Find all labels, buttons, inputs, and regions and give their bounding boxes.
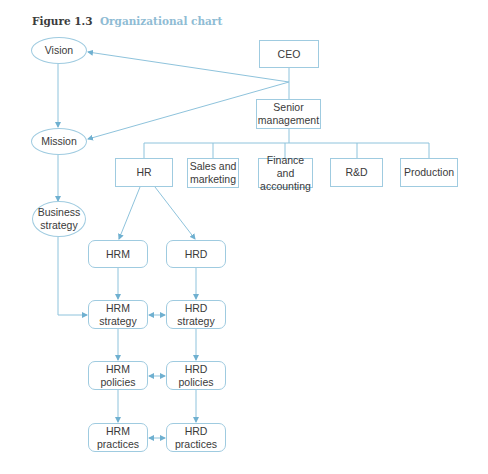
node-business-strategy: Business strategy xyxy=(32,201,86,237)
node-mission: Mission xyxy=(31,128,87,155)
node-hrm-strategy: HRM strategy xyxy=(88,300,148,329)
node-senior-management: Senior management xyxy=(256,99,321,129)
node-rnd: R&D xyxy=(330,158,383,187)
node-finance-accounting: Finance and accounting xyxy=(258,158,313,188)
node-hrm: HRM xyxy=(88,240,148,268)
node-hrm-practices: HRM practices xyxy=(88,423,148,452)
node-vision: Vision xyxy=(31,37,87,64)
node-hrd-practices: HRD practices xyxy=(166,423,226,452)
node-hrd-strategy: HRD strategy xyxy=(166,300,226,329)
node-hrd: HRD xyxy=(166,240,226,268)
node-production: Production xyxy=(400,158,458,187)
node-sales-marketing: Sales and marketing xyxy=(187,158,239,188)
node-ceo: CEO xyxy=(259,40,319,68)
node-hrm-policies: HRM policies xyxy=(88,361,148,390)
connector-lines xyxy=(0,0,488,474)
node-hr: HR xyxy=(115,158,173,187)
node-hrd-policies: HRD policies xyxy=(166,361,226,390)
